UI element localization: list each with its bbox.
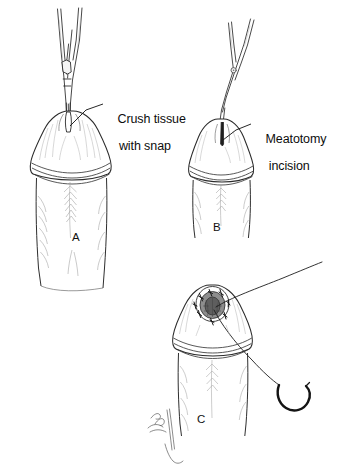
annotation-label-meatotomy-line2: incision (252, 160, 326, 174)
shaft-shading-b (195, 184, 250, 237)
panel-letter-a: A (72, 231, 80, 243)
panel-b-group (189, 19, 254, 238)
panel-letter-b: B (213, 221, 221, 233)
annotation-label-crush-line1: Crush tissue (118, 112, 186, 126)
illustration-canvas (0, 0, 339, 476)
curved-needle-icon (278, 383, 310, 411)
meatus-opening-c (196, 287, 229, 322)
panel-c-group (173, 262, 322, 436)
panel-a-group (30, 8, 111, 291)
scissors-icon (220, 19, 254, 126)
annotation-label-meatotomy-incision: Meatotomy incision (252, 119, 326, 200)
medical-illustration-figure: Crush tissue with snap Meatotomy incisio… (0, 0, 339, 476)
annotation-label-crush-line2: with snap (104, 140, 186, 154)
shaft-shading-a (38, 182, 106, 276)
annotation-label-crush-tissue: Crush tissue with snap (104, 99, 186, 180)
glans-outline-b (189, 119, 254, 182)
panel-letter-c: C (197, 413, 205, 425)
shaft-shading-c (180, 360, 247, 431)
shaft-outline-c (178, 353, 248, 436)
artist-signature (148, 409, 183, 463)
annotation-label-meatotomy-line1: Meatotomy (266, 132, 327, 146)
